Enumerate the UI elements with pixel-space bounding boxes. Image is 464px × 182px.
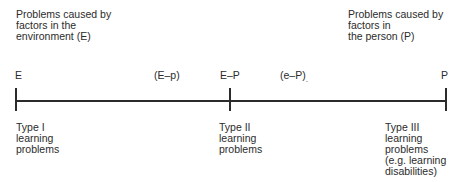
- label-P: P: [441, 70, 448, 81]
- type3-label: Type III learning problems (e.g. learnin…: [385, 122, 446, 177]
- label-e-P-text: (e–P): [280, 69, 306, 81]
- label-e-P: (e–P).: [280, 70, 308, 82]
- environment-heading: Problems caused by factors in the enviro…: [16, 9, 111, 42]
- type2-label: Type II learning problems: [219, 122, 262, 155]
- person-heading: Problems caused by factors in the person…: [348, 9, 443, 42]
- tick-P: [445, 88, 447, 111]
- label-E-P: E–P: [220, 70, 240, 81]
- continuum-axis-line: [16, 100, 447, 102]
- label-E-p: (E–p): [154, 70, 180, 81]
- label-e-P-mark: .: [306, 75, 308, 84]
- type1-label: Type I learning problems: [16, 122, 59, 155]
- tick-E-P: [229, 88, 231, 111]
- label-E: E: [15, 70, 22, 81]
- tick-E: [15, 88, 17, 111]
